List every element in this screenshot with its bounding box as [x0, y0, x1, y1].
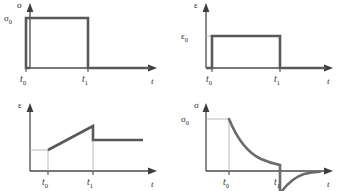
tick-label-t0: t0: [223, 177, 229, 189]
relaxation-recovery-signal: [282, 172, 320, 191]
epsilon-zero-label: ε0: [181, 31, 188, 43]
y-axis-arrow-icon: [203, 103, 210, 112]
x-axis-arrow-icon: [324, 168, 333, 175]
viscoelasticity-figure: σ σ0 t0 t1 t ε: [0, 0, 351, 191]
tick-label-t1: t1: [82, 74, 88, 86]
y-axis-label: ε: [194, 0, 198, 10]
y-axis-arrow-icon: [203, 3, 210, 12]
y-axis-arrow-icon: [27, 103, 34, 112]
panel-applied-strain: ε ε0 t0 t1 t: [176, 0, 351, 96]
tick-label-t1: t1: [274, 74, 280, 86]
sigma-zero-label: σ0: [181, 114, 189, 126]
creep-strain-signal: [48, 126, 143, 150]
panel-creep-response: ε t0 t1 t: [0, 95, 176, 191]
x-axis-label: t: [151, 179, 154, 189]
relaxation-decay-signal: [229, 119, 280, 165]
x-axis-label: t: [327, 76, 330, 86]
y-axis-label: σ: [194, 100, 199, 110]
x-axis-label: t: [327, 179, 330, 189]
y-axis-label: σ: [17, 0, 22, 10]
stress-pulse-signal: [26, 18, 150, 68]
y-axis-label: ε: [18, 100, 22, 110]
tick-label-t0: t0: [42, 177, 48, 189]
x-axis-arrow-icon: [148, 168, 157, 175]
strain-pulse-signal: [206, 36, 326, 68]
tick-label-t0: t0: [206, 74, 212, 86]
sigma-zero-label: σ0: [4, 13, 12, 25]
panel-applied-stress: σ σ0 t0 t1 t: [0, 0, 176, 96]
tick-label-t1: t1: [87, 177, 93, 189]
x-axis-label: t: [151, 76, 154, 86]
tick-label-t0: t0: [20, 74, 26, 86]
panel-relaxation-response: σ σ0 t0 t1 t: [176, 95, 351, 191]
y-axis-arrow-icon: [27, 3, 34, 12]
